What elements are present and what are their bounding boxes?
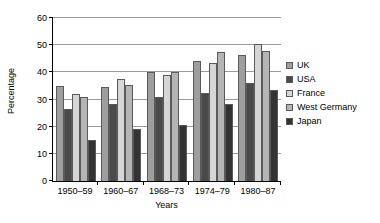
bar	[217, 52, 225, 181]
legend-swatch-icon	[286, 104, 293, 111]
bar	[254, 44, 262, 181]
y-tick-label: 40	[23, 68, 47, 77]
x-axis-tick-labels: 1950–591960–671968–731974–791980–87	[52, 186, 281, 196]
bar	[72, 94, 80, 181]
legend-swatch-icon	[286, 118, 293, 125]
bar	[262, 51, 270, 181]
legend-item[interactable]: Japan	[286, 116, 357, 127]
legend-label: Japan	[297, 117, 322, 126]
bar	[109, 104, 117, 181]
legend-label: West Germany	[297, 103, 357, 112]
x-axis-title: Years	[52, 200, 281, 210]
bar	[193, 61, 201, 181]
bar-group	[190, 18, 236, 181]
legend-label: USA	[297, 75, 316, 84]
legend-swatch-icon	[286, 62, 293, 69]
x-tick-label: 1974–79	[189, 186, 235, 196]
bar-group	[235, 18, 281, 181]
bar	[101, 87, 109, 181]
bar	[117, 79, 125, 181]
bar	[80, 97, 88, 181]
y-tick-label: 10	[23, 149, 47, 158]
legend-item[interactable]: France	[286, 88, 357, 99]
bar	[155, 97, 163, 181]
legend-swatch-icon	[286, 76, 293, 83]
bar	[246, 83, 254, 181]
y-tick-label: 20	[23, 122, 47, 131]
y-axis-title: Percentage	[2, 0, 20, 181]
bar-group	[99, 18, 145, 181]
bar	[163, 75, 171, 181]
y-tick-label: 0	[23, 177, 47, 186]
y-tick-label: 30	[23, 95, 47, 104]
bar	[88, 140, 96, 181]
legend: UKUSAFranceWest GermanyJapan	[286, 60, 357, 127]
bar	[56, 86, 64, 181]
x-tick-label: 1968–73	[144, 186, 190, 196]
legend-swatch-icon	[286, 90, 293, 97]
bar	[270, 90, 278, 181]
bar	[238, 55, 246, 181]
y-axis-title-text: Percentage	[6, 67, 16, 113]
legend-item[interactable]: West Germany	[286, 102, 357, 113]
x-tick-label: 1950–59	[52, 186, 98, 196]
bar	[209, 63, 217, 181]
bar	[201, 93, 209, 181]
bar	[125, 85, 133, 181]
bar-chart: Percentage 0102030405060 1950–591960–671…	[0, 0, 380, 223]
legend-label: UK	[297, 61, 310, 70]
bars-layer	[53, 18, 281, 181]
bar	[133, 129, 141, 181]
legend-item[interactable]: USA	[286, 74, 357, 85]
legend-item[interactable]: UK	[286, 60, 357, 71]
bar	[171, 72, 179, 181]
y-tick-label: 60	[23, 14, 47, 23]
x-tick-label: 1980–87	[235, 186, 281, 196]
bar	[225, 104, 233, 181]
bar-group	[144, 18, 190, 181]
bar	[147, 72, 155, 181]
y-tick-label: 50	[23, 41, 47, 50]
x-tick-label: 1960–67	[98, 186, 144, 196]
bar	[64, 109, 72, 181]
bar-group	[53, 18, 99, 181]
plot-area: 0102030405060	[52, 18, 281, 182]
legend-label: France	[297, 89, 325, 98]
bar	[179, 125, 187, 181]
